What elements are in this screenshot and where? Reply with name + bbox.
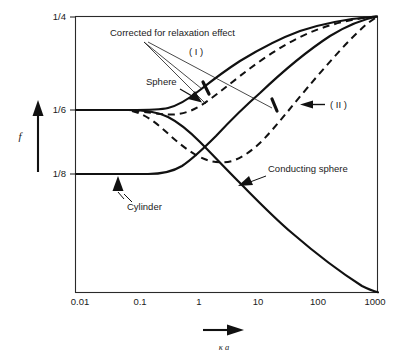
henry-function-figure: 1/4 1/6 1/8 f 0.01 0.1 1 10 100 1000 κ a <box>0 0 405 361</box>
x-tick-label-100: 100 <box>310 296 326 307</box>
chart-canvas: 1/4 1/6 1/8 f 0.01 0.1 1 10 100 1000 κ a <box>0 0 405 361</box>
annotation-cylinder-arrow <box>113 176 133 202</box>
x-tick-label-1: 1 <box>196 296 201 307</box>
x-axis-title: κ a <box>219 342 229 352</box>
y-axis-title: f <box>18 130 23 142</box>
curve-cylinder <box>76 17 377 175</box>
x-tick-label-1000: 1000 <box>364 296 385 307</box>
annotation-roman-two: ( II ) <box>330 99 347 110</box>
plot-frame <box>76 17 378 293</box>
annotation-roman-two-arrow <box>300 101 325 109</box>
leader-lines-corrected <box>144 42 272 108</box>
x-tick-label-0-01: 0.01 <box>71 296 90 307</box>
x-axis-arrow <box>203 325 244 336</box>
annotation-conducting-sphere-arrow <box>238 176 266 186</box>
annotation-roman-one: ( I ) <box>189 46 203 57</box>
annotation-cylinder: Cylinder <box>127 201 162 212</box>
y-tick-label-quarter: 1/4 <box>53 11 66 22</box>
curve-cylinder-corrected <box>132 17 377 163</box>
y-tick-label-sixth: 1/6 <box>53 104 66 115</box>
annotation-conducting-sphere: Conducting sphere <box>268 163 348 174</box>
x-tick-label-10: 10 <box>253 296 264 307</box>
x-tick-label-0-1: 0.1 <box>133 296 146 307</box>
marker-curve-two <box>272 99 277 111</box>
curve-conducting-sphere <box>76 110 378 292</box>
annotation-corrected-for-relaxation: Corrected for relaxation effect <box>110 27 235 38</box>
annotation-sphere: Sphere <box>146 76 177 87</box>
y-tick-label-eighth: 1/8 <box>53 168 66 179</box>
y-axis-arrow <box>33 100 44 172</box>
